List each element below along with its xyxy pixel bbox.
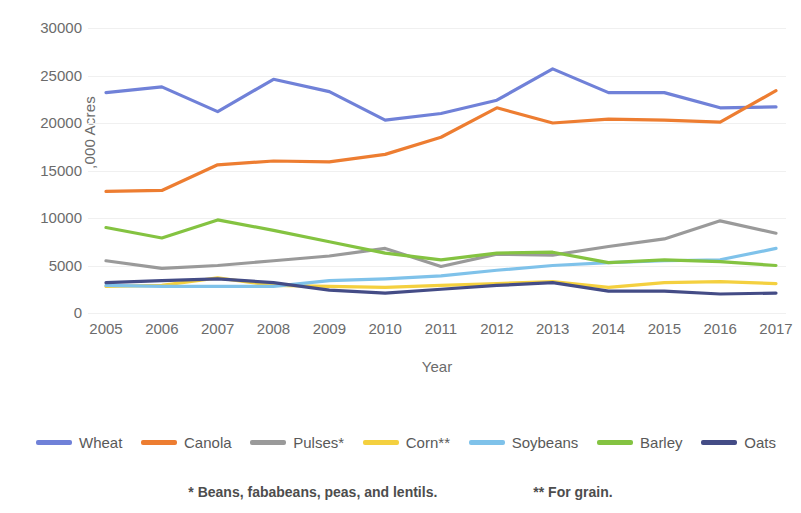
gridline [88,313,786,314]
legend-item-corn[interactable]: Corn** [363,434,450,451]
legend-label: Wheat [79,434,122,451]
legend-swatch-icon [363,440,399,445]
y-tick-label: 30000 [12,19,82,36]
y-tick-label: 5000 [12,257,82,274]
footnote-pulses: * Beans, fababeans, peas, and lentils. [188,484,437,500]
legend-label: Pulses* [293,434,344,451]
legend-item-pulses[interactable]: Pulses* [250,434,344,451]
footnotes: * Beans, fababeans, peas, and lentils. *… [0,484,801,500]
series-lines [88,28,786,313]
series-line-wheat [106,69,776,120]
legend-swatch-icon [250,440,286,445]
y-tick-label: 10000 [12,209,82,226]
legend-label: Barley [640,434,683,451]
legend-label: Soybeans [512,434,579,451]
y-tick-label: 20000 [12,114,82,131]
legend-item-barley[interactable]: Barley [597,434,683,451]
legend-swatch-icon [141,440,177,445]
y-tick-label: 15000 [12,162,82,179]
x-tick-label: 2017 [741,320,801,337]
plot-area: ,000 Acres 05000100001500020000250003000… [88,28,786,313]
y-tick-label: 0 [12,304,82,321]
legend-label: Corn** [406,434,450,451]
legend-item-soybeans[interactable]: Soybeans [469,434,579,451]
y-tick-label: 25000 [12,67,82,84]
footnote-corn: ** For grain. [533,484,612,500]
legend-item-canola[interactable]: Canola [141,434,232,451]
series-line-barley [106,220,776,266]
x-axis-title: Year [88,358,786,375]
legend-swatch-icon [469,440,505,445]
line-chart: ,000 Acres 05000100001500020000250003000… [0,0,801,513]
legend-label: Canola [184,434,232,451]
legend-swatch-icon [597,440,633,445]
legend-swatch-icon [701,440,737,445]
legend-swatch-icon [36,440,72,445]
legend: WheatCanolaPulses*Corn**SoybeansBarleyOa… [36,434,776,451]
legend-item-wheat[interactable]: Wheat [36,434,122,451]
legend-label: Oats [744,434,776,451]
legend-item-oats[interactable]: Oats [701,434,776,451]
